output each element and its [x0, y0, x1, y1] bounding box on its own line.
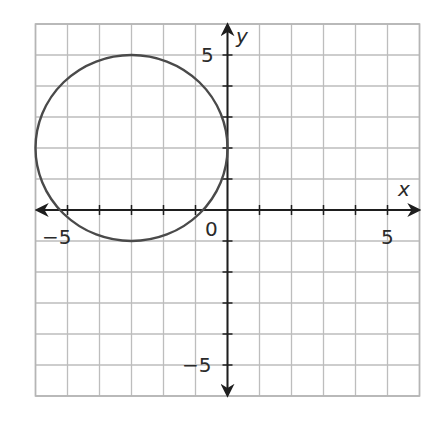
x-axis-label: x [397, 177, 410, 201]
origin-label: 0 [205, 217, 218, 241]
coordinate-plane: x y 5 −5 −5 0 5 [0, 0, 443, 426]
y-tick-label-5: 5 [201, 43, 214, 67]
x-tick-label-neg5: −5 [42, 225, 71, 249]
y-tick-label-neg5: −5 [182, 353, 211, 377]
y-axis-label: y [235, 24, 249, 48]
x-tick-label-5: 5 [381, 225, 394, 249]
